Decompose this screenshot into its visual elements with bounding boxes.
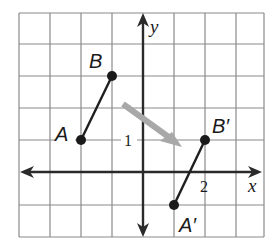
point-label-A: A — [54, 123, 68, 145]
point-label-B-prime: B′ — [212, 115, 230, 137]
point-A-prime — [169, 200, 179, 210]
point-B-prime — [200, 135, 210, 145]
coordinate-plane: y x 1 2 A B A′ B′ — [0, 0, 266, 240]
x-axis-label: x — [247, 175, 257, 196]
point-A — [76, 135, 86, 145]
x-axis — [20, 166, 262, 178]
point-B — [107, 71, 117, 81]
y-tick-label-1: 1 — [124, 132, 132, 149]
point-label-A-prime: A′ — [178, 214, 197, 236]
point-label-B: B — [89, 50, 102, 72]
x-tick-label-2: 2 — [200, 178, 208, 195]
y-axis-label: y — [148, 16, 159, 37]
